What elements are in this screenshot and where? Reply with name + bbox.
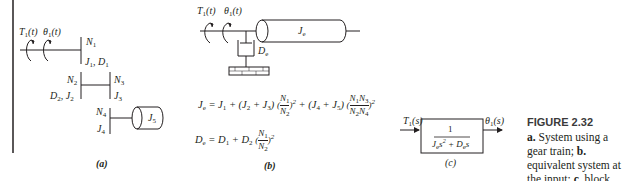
panel-b-torque-label: T1(t) xyxy=(197,5,216,18)
gear-label-n2: N2 xyxy=(67,74,77,87)
gear-label-j3: J3 xyxy=(114,90,122,103)
transfer-function-denominator: Jes2 + Des xyxy=(432,138,469,151)
panel-c-label: (c) xyxy=(445,157,456,168)
panel-a-torque-label: T1(t) xyxy=(19,26,38,39)
equation-de: De = D1 + D2 (N1N2)2 xyxy=(195,128,274,153)
gear-label-n3: N3 xyxy=(114,74,124,87)
panel-b-label: (b) xyxy=(264,160,276,171)
gear-label-j4: J4 xyxy=(97,123,105,136)
inertia-label-j5: J5 xyxy=(148,112,156,125)
equation-je: Je = J1 + (J2 + J3) (N1N2)2 + (J4 + J5) … xyxy=(198,93,375,118)
panel-a-label: (a) xyxy=(96,158,108,169)
gear-label-n1: N1 xyxy=(86,36,96,49)
gear-label-j1-d1: J1, D1 xyxy=(85,56,109,69)
transfer-function-numerator: 1 xyxy=(448,124,453,134)
gear-label-n4: N4 xyxy=(96,106,106,119)
panel-a-angle-label: θ1(t) xyxy=(43,26,61,39)
block-input-label: T1(s) xyxy=(403,115,423,128)
figure-number: FIGURE 2.32 xyxy=(527,116,593,128)
panel-b-angle-label: θ1(t) xyxy=(224,5,242,18)
figure-caption: a. System using a gear train; b. equival… xyxy=(527,130,628,181)
gear-label-d2-j2: D2, J2 xyxy=(50,90,74,103)
inertia-label-je: Je xyxy=(298,25,306,38)
block-output-label: θ1(s) xyxy=(485,115,504,128)
damper-label-de: De xyxy=(258,45,268,58)
